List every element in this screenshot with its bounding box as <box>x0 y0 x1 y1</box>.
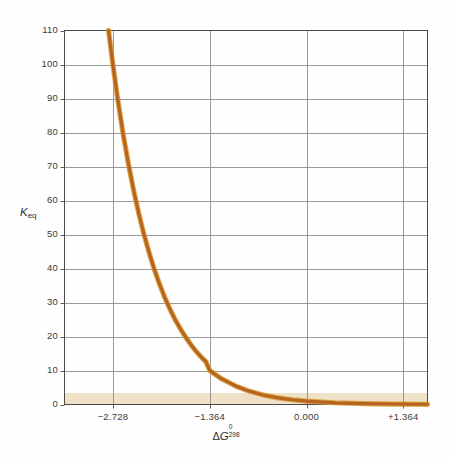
x-axis-subscript: 298 <box>229 432 240 439</box>
chart-figure: 0102030405060708090100110 −2.728−1.3640.… <box>0 0 452 458</box>
y-tick-label: 10 <box>26 364 58 375</box>
y-axis-title: Keq <box>20 206 37 220</box>
x-axis-symbol: G <box>220 430 229 442</box>
x-tick-label: −1.364 <box>180 411 240 422</box>
y-tick-label: 90 <box>26 92 58 103</box>
y-tick-label: 80 <box>26 126 58 137</box>
x-axis-supsub: 0298 <box>229 427 240 440</box>
y-tick-label: 70 <box>26 160 58 171</box>
x-tick-label: −2.728 <box>83 411 143 422</box>
x-axis-title: ΔG0298 <box>0 428 452 442</box>
y-tick-label: 0 <box>26 398 58 409</box>
chart-plot-svg <box>0 0 452 458</box>
x-axis-delta-symbol: Δ <box>212 430 219 442</box>
data-curve <box>109 31 428 405</box>
plot-frame <box>65 31 428 405</box>
y-tick-label: 40 <box>26 262 58 273</box>
vertical-gridlines <box>114 31 404 405</box>
y-tick-label: 30 <box>26 296 58 307</box>
x-tick-label: 0.000 <box>277 411 337 422</box>
y-tick-label: 50 <box>26 228 58 239</box>
y-axis-subscript: eq <box>28 211 37 220</box>
x-axis-superscript: 0 <box>229 424 240 431</box>
y-tick-label: 60 <box>26 194 58 205</box>
y-tick-label: 110 <box>26 24 58 35</box>
y-tick-marks <box>61 32 65 406</box>
curve-highlight <box>109 31 428 405</box>
x-tick-label: +1.364 <box>373 411 433 422</box>
y-tick-label: 20 <box>26 330 58 341</box>
y-tick-label: 100 <box>26 58 58 69</box>
y-axis-symbol: K <box>20 206 28 218</box>
